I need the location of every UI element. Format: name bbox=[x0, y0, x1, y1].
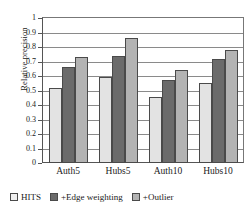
x-tick-label: Auth5 bbox=[43, 166, 93, 176]
y-tick-label: 0.9 bbox=[26, 27, 36, 38]
bar bbox=[112, 56, 125, 163]
legend-label: +Edge weighting bbox=[61, 192, 123, 202]
y-tick-label: 0.7 bbox=[26, 56, 36, 67]
legend-swatch bbox=[10, 193, 18, 201]
x-tick-label: Hubs10 bbox=[193, 166, 243, 176]
y-tick-label: 0 bbox=[32, 157, 36, 168]
legend-swatch bbox=[132, 193, 140, 201]
y-tick-mark bbox=[38, 163, 42, 164]
bar bbox=[225, 50, 238, 163]
y-tick-label: 0.8 bbox=[26, 41, 36, 52]
legend-item: +Edge weighting bbox=[50, 192, 123, 202]
y-tick-label: 0.6 bbox=[26, 70, 36, 81]
bar bbox=[175, 70, 188, 163]
bar-chart: Relative precision 00.10.20.30.40.50.60.… bbox=[0, 0, 251, 215]
y-tick-label: 1 bbox=[32, 12, 36, 23]
legend-swatch bbox=[50, 193, 58, 201]
y-tick-label: 0.5 bbox=[26, 85, 36, 96]
y-tick-label: 0.2 bbox=[26, 128, 36, 139]
y-axis-ticks: 00.10.20.30.40.50.60.70.80.91 bbox=[0, 17, 42, 163]
bar bbox=[75, 57, 88, 163]
x-axis-labels: Auth5Hubs5Auth10Hubs10 bbox=[43, 166, 243, 176]
bar bbox=[162, 80, 175, 163]
bar-groups bbox=[43, 18, 243, 163]
legend: HITS+Edge weighting+Outlier bbox=[10, 192, 245, 202]
legend-item: HITS bbox=[10, 192, 41, 202]
bar bbox=[199, 83, 212, 163]
x-tick-label: Auth10 bbox=[143, 166, 193, 176]
x-tick-label: Hubs5 bbox=[93, 166, 143, 176]
bar-group-hubs5 bbox=[93, 18, 143, 163]
bar-group-auth10 bbox=[143, 18, 193, 163]
legend-label: +Outlier bbox=[143, 192, 174, 202]
bar-group-auth5 bbox=[43, 18, 93, 163]
y-tick-label: 0.3 bbox=[26, 114, 36, 125]
bar bbox=[125, 38, 138, 163]
bar bbox=[99, 77, 112, 163]
legend-label: HITS bbox=[21, 192, 41, 202]
bar bbox=[62, 67, 75, 163]
y-tick-label: 0.4 bbox=[26, 99, 36, 110]
bar-group-hubs10 bbox=[193, 18, 243, 163]
bar bbox=[212, 59, 225, 163]
y-tick-label: 0.1 bbox=[26, 143, 36, 154]
bar bbox=[49, 88, 62, 163]
legend-item: +Outlier bbox=[132, 192, 174, 202]
bar bbox=[149, 97, 162, 163]
